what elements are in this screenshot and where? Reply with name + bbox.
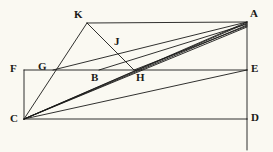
vertex-label-A: A xyxy=(250,8,258,19)
vertex-label-K: K xyxy=(74,9,83,20)
geometric-figure: K A J F G E B H C D xyxy=(0,0,273,152)
vertex-label-E: E xyxy=(251,63,258,74)
vertex-label-G: G xyxy=(38,61,47,72)
vertex-label-D: D xyxy=(251,112,259,123)
vertex-label-B: B xyxy=(91,72,98,83)
vertex-label-J: J xyxy=(114,36,120,47)
vertex-label-C: C xyxy=(10,113,18,124)
vertex-label-F: F xyxy=(10,63,17,74)
vertex-label-H: H xyxy=(136,72,145,83)
